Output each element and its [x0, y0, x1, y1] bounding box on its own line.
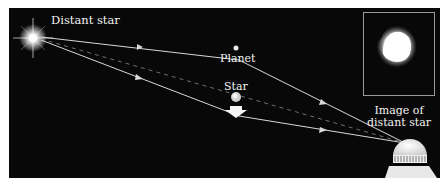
lens-star-icon — [231, 92, 241, 102]
planet-label: Planet — [220, 53, 256, 65]
arrowhead-icon — [319, 99, 327, 105]
diagram-panel: Distant star Planet Star Image of distan… — [9, 8, 440, 178]
image-caption: Image of distant star — [364, 105, 434, 129]
arrowhead-icon — [135, 74, 143, 80]
arrowhead-icon — [319, 127, 327, 133]
down-arrow-icon — [225, 106, 247, 118]
image-caption-line2: distant star — [364, 117, 434, 129]
image-frame — [363, 12, 435, 96]
telescope-observatory-icon — [385, 139, 437, 178]
planet-icon — [234, 46, 239, 51]
distant-star-label: Distant star — [51, 14, 120, 26]
star-label: Star — [224, 81, 248, 93]
